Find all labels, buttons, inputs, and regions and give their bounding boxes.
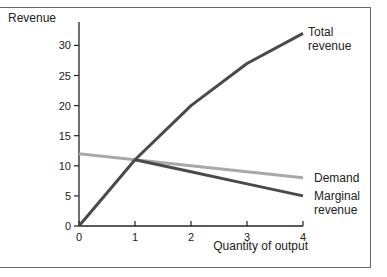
y-tick-label: 30 (59, 39, 71, 51)
x-axis-title: Quantity of output (213, 239, 308, 253)
demand-line (79, 154, 303, 178)
demand-label: Demand (314, 171, 359, 185)
x-tick-label: 0 (76, 231, 82, 243)
y-tick-label: 20 (59, 100, 71, 112)
y-tick-label: 0 (65, 220, 71, 232)
y-tick-label: 10 (59, 160, 71, 172)
marginal-revenue-label: Marginalrevenue (314, 189, 360, 217)
y-tick-label: 5 (65, 190, 71, 202)
marginal-revenue-line (135, 160, 303, 196)
revenue-chart: 05101520253001234 DemandTotalrevenueMarg… (0, 0, 387, 277)
total-revenue-line (79, 33, 303, 226)
total-revenue-label: Totalrevenue (308, 25, 352, 53)
y-axis-title: Revenue (8, 11, 56, 25)
series-labels: DemandTotalrevenueMarginalrevenue (308, 25, 360, 217)
x-tick-label: 2 (188, 231, 194, 243)
y-tick-label: 25 (59, 70, 71, 82)
x-tick-label: 1 (132, 231, 138, 243)
series-lines (79, 33, 303, 226)
axes: 05101520253001234 (59, 22, 306, 243)
y-tick-label: 15 (59, 130, 71, 142)
